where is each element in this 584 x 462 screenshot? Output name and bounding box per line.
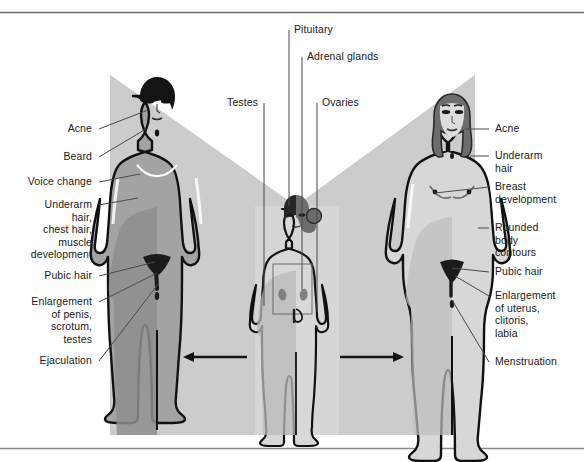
label-ovaries: Ovaries xyxy=(322,96,359,109)
label-male-pubic-hair: Pubic hair xyxy=(4,269,92,282)
label-male-enlargement: Enlargement of penis, scrotum, testes xyxy=(4,295,92,345)
label-female-pubic-hair: Pubic hair xyxy=(495,265,583,278)
label-female-menstruation: Menstruation xyxy=(495,355,584,368)
label-adrenal-glands: Adrenal glands xyxy=(307,50,378,63)
child-hair-bun xyxy=(307,209,322,224)
label-female-underarm-hair: Underarm hair xyxy=(495,149,583,174)
label-female-rounded-body-contours: Rounded body contours xyxy=(495,221,583,259)
label-male-underarm-chest-muscle: Underarm hair, chest hair, muscle develo… xyxy=(4,198,92,261)
female-nipple-left xyxy=(433,190,438,195)
label-female-enlargement: Enlargement of uterus, clitoris, labia xyxy=(495,289,583,339)
label-male-beard: Beard xyxy=(4,150,92,163)
puberty-diagram: Pituitary Adrenal glands Testes Ovaries … xyxy=(0,0,584,462)
label-male-acne: Acne xyxy=(4,122,92,135)
male-eye-right xyxy=(161,98,171,103)
label-female-acne: Acne xyxy=(495,122,583,135)
female-navel xyxy=(450,300,454,308)
male-eye-left xyxy=(144,98,154,103)
label-testes: Testes xyxy=(186,96,258,109)
female-eye-right xyxy=(455,110,463,114)
female-eye-left xyxy=(442,110,450,114)
child-eye-left xyxy=(288,213,294,217)
female-neck-hollow xyxy=(450,153,454,159)
label-female-breast-development: Breast development xyxy=(495,180,583,205)
male-adams-apple xyxy=(155,130,159,137)
male-navel xyxy=(155,292,159,300)
female-nipple-right xyxy=(467,190,472,195)
label-male-voice-change: Voice change xyxy=(4,175,92,188)
label-male-ejaculation: Ejaculation xyxy=(4,354,92,367)
label-pituitary: Pituitary xyxy=(294,23,333,36)
